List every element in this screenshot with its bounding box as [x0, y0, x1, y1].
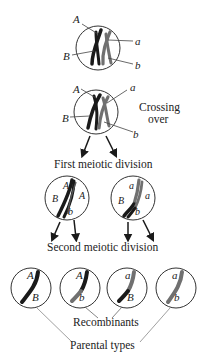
crossing-over-caption: Crossing	[139, 101, 180, 113]
gamete-3-top-label: a	[125, 270, 131, 281]
allele-label-B: B	[63, 51, 70, 62]
allele-label: B	[52, 193, 58, 204]
allele-label: a	[129, 180, 134, 191]
stage1-cell	[72, 24, 133, 70]
second-division-caption: Second meiotic division	[47, 241, 158, 253]
gamete-4-top-label: a	[172, 270, 178, 281]
allele-label-b: b	[135, 60, 141, 71]
allele-label-a: a	[130, 82, 136, 93]
allele-label: b	[68, 206, 73, 217]
allele-label-b: b	[133, 129, 139, 140]
recombinants-label: Recombinants	[73, 316, 139, 328]
allele-label: B	[118, 195, 124, 206]
allele-label: A	[79, 190, 85, 201]
gamete-1-bottom-label: B	[32, 292, 39, 303]
gamete-2-top-label: A	[76, 270, 83, 281]
allele-label-A: A	[73, 14, 80, 25]
gamete-1-top-label: A	[27, 270, 34, 281]
stage2-cell	[70, 89, 133, 154]
parental-types-label: Parental types	[70, 339, 135, 351]
gamete-2-bottom-label: b	[79, 292, 85, 303]
allele-label: b	[135, 206, 140, 217]
first-division-caption: First meiotic division	[54, 158, 152, 170]
gamete-3-bottom-label: B	[127, 292, 134, 303]
allele-label: A	[63, 180, 69, 191]
allele-label-a: a	[135, 36, 141, 47]
allele-label: a	[145, 190, 150, 201]
allele-label-B: B	[62, 113, 69, 124]
allele-label-A: A	[73, 84, 80, 95]
crossing-over-caption-2: over	[148, 113, 168, 125]
gamete-4-bottom-label: b	[174, 292, 180, 303]
